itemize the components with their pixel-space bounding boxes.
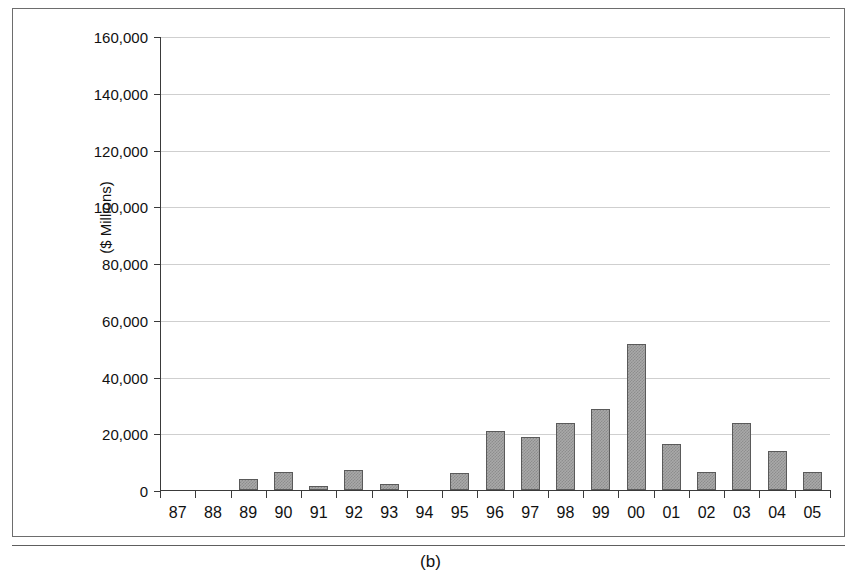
x-axis-line	[160, 490, 830, 491]
y-axis-tick-label: 120,000	[94, 142, 148, 159]
gridline	[160, 37, 830, 38]
bar-93	[380, 484, 399, 490]
bar-95	[450, 473, 469, 490]
bar-01	[662, 444, 681, 490]
x-axis-tick-label: 90	[275, 504, 293, 522]
plot-inner: 020,00040,00060,00080,000100,000120,0001…	[160, 37, 830, 491]
x-axis-tick	[795, 490, 796, 498]
bar-89	[239, 479, 258, 490]
x-axis-tick-label: 89	[239, 504, 257, 522]
x-axis-tick	[231, 490, 232, 498]
x-axis-tick	[336, 490, 337, 498]
figure-container: ($ Millions) 020,00040,00060,00080,00010…	[0, 0, 861, 581]
bar-99	[591, 409, 610, 490]
bar-03	[732, 423, 751, 490]
x-axis-tick	[160, 490, 161, 498]
bar-90	[274, 472, 293, 490]
x-axis-tick-label: 92	[345, 504, 363, 522]
y-axis-tick-label: 0	[140, 483, 148, 500]
x-axis-tick-label: 00	[627, 504, 645, 522]
x-axis-tick	[195, 490, 196, 498]
gridline	[160, 264, 830, 265]
y-axis-tick-label: 140,000	[94, 85, 148, 102]
bar-91	[309, 486, 328, 490]
x-axis-tick	[513, 490, 514, 498]
bar-97	[521, 437, 540, 490]
x-axis-tick	[372, 490, 373, 498]
x-axis-tick	[618, 490, 619, 498]
figure-caption: (b)	[0, 552, 861, 572]
y-axis-line	[160, 37, 161, 491]
x-axis-tick-label: 96	[486, 504, 504, 522]
bar-05	[803, 472, 822, 490]
x-axis-tick-label: 95	[451, 504, 469, 522]
x-axis-tick-label: 88	[204, 504, 222, 522]
bar-96	[486, 431, 505, 490]
y-axis-tick-label: 20,000	[102, 426, 148, 443]
bar-98	[556, 423, 575, 490]
x-axis-tick-label: 99	[592, 504, 610, 522]
x-axis-tick	[759, 490, 760, 498]
y-axis-tick-label: 60,000	[102, 312, 148, 329]
bar-04	[768, 451, 787, 490]
x-axis-tick	[548, 490, 549, 498]
x-axis-tick-label: 02	[698, 504, 716, 522]
x-axis-tick-label: 03	[733, 504, 751, 522]
gridline	[160, 207, 830, 208]
y-axis-tick-label: 40,000	[102, 369, 148, 386]
x-axis-tick	[442, 490, 443, 498]
chart-frame: ($ Millions) 020,00040,00060,00080,00010…	[12, 8, 845, 537]
x-axis-tick-label: 98	[557, 504, 575, 522]
y-axis-tick-label: 80,000	[102, 256, 148, 273]
y-axis-tick-label: 160,000	[94, 29, 148, 46]
bar-00	[627, 344, 646, 490]
gridline	[160, 94, 830, 95]
x-axis-tick-label: 94	[416, 504, 434, 522]
x-axis-tick	[830, 490, 831, 498]
x-axis-tick	[689, 490, 690, 498]
x-axis-tick-label: 97	[521, 504, 539, 522]
x-axis-tick	[724, 490, 725, 498]
bar-02	[697, 472, 716, 490]
gridline	[160, 378, 830, 379]
x-axis-tick	[301, 490, 302, 498]
x-axis-tick	[583, 490, 584, 498]
gridline	[160, 321, 830, 322]
x-axis-tick	[477, 490, 478, 498]
gridline	[160, 151, 830, 152]
x-axis-tick-label: 04	[768, 504, 786, 522]
y-axis-tick-label: 100,000	[94, 199, 148, 216]
x-axis-tick	[407, 490, 408, 498]
x-axis-tick	[266, 490, 267, 498]
caption-divider	[12, 545, 845, 546]
x-axis-tick-label: 01	[662, 504, 680, 522]
bar-92	[344, 470, 363, 490]
x-axis-tick	[654, 490, 655, 498]
x-axis-tick-label: 93	[380, 504, 398, 522]
x-axis-tick-label: 05	[803, 504, 821, 522]
plot-area: 020,00040,00060,00080,000100,000120,0001…	[160, 37, 830, 491]
x-axis-tick-label: 91	[310, 504, 328, 522]
x-axis-tick-label: 87	[169, 504, 187, 522]
